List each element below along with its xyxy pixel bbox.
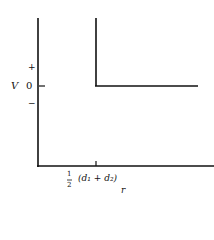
x-axis-label: r	[121, 186, 125, 195]
fraction-numerator: 1	[67, 171, 71, 178]
fraction-denominator: 2	[67, 182, 71, 189]
x-tick-label: (d₁ + d₂)	[78, 174, 117, 183]
zero-label: 0	[26, 81, 32, 91]
plus-label: +	[28, 63, 36, 72]
minus-label: −	[28, 99, 36, 108]
y-axis-label: V	[11, 81, 18, 91]
